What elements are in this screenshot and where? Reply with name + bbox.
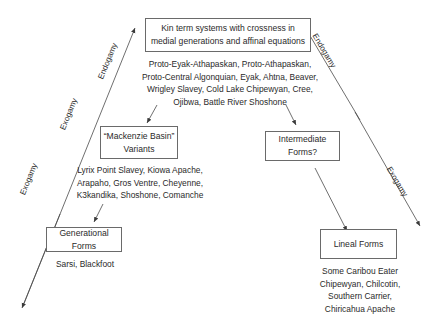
node-top-box: Kin term systems with crossness in media…: [145, 18, 311, 52]
node-generational-box: Generational Forms: [46, 227, 122, 252]
node-mackenzie-title-line1: “Mackenzie Basin”: [104, 130, 175, 143]
member-line: Ojibwa, Battle River Shoshone: [130, 96, 330, 109]
node-mackenzie-box: “Mackenzie Basin” Variants: [100, 126, 178, 159]
member-line: Arapaho, Gros Ventre, Cheyenne,: [68, 177, 212, 190]
node-intermediate-title: Intermediate Forms?: [266, 133, 339, 159]
axis-label-left-lower: Exogamy: [18, 162, 39, 196]
member-line: Wrigley Slavey, Cold Lake Chipewyan, Cre…: [130, 83, 330, 96]
member-line: Proto-Central Algonquian, Eyak, Ahtna, B…: [130, 71, 330, 84]
member-line: Chiricahua Apache: [310, 303, 410, 316]
member-line: Chipewyan, Chilcotin,: [310, 278, 410, 291]
member-line: Lyrix Point Slavey, Kiowa Apache,: [68, 164, 212, 177]
node-top-title-line1: Kin term systems with crossness in: [161, 22, 295, 35]
member-line: Sarsi, Blackfoot: [40, 258, 130, 271]
node-generational-title: Generational Forms: [47, 227, 121, 253]
node-mackenzie-members: Lyrix Point Slavey, Kiowa Apache, Arapah…: [68, 164, 212, 202]
node-mackenzie-title-line2: Variants: [124, 143, 155, 156]
node-top-members: Proto-Eyak-Athapaskan, Proto-Athapaskan,…: [130, 58, 330, 108]
axis-label-left-middle: Exogamy: [58, 97, 79, 131]
node-lineal-members: Some Caribou Eater Chipewyan, Chilcotin,…: [310, 265, 410, 315]
axis-label-left-upper: Endogamy: [96, 42, 119, 81]
node-top-title-line2: medial generations and affinal equations: [151, 35, 305, 48]
node-intermediate-box: Intermediate Forms?: [265, 131, 340, 161]
member-line: Some Caribou Eater: [310, 265, 410, 278]
arrow-mackenzie-to-generational: [94, 204, 103, 222]
arrow-intermediate-to-lineal: [315, 168, 347, 231]
node-lineal-title: Lineal Forms: [334, 238, 384, 251]
member-line: Southern Carrier,: [310, 290, 410, 303]
member-line: K3kandika, Shoshone, Comanche: [68, 189, 212, 202]
arrow-top-to-intermediate: [286, 105, 296, 125]
node-generational-members: Sarsi, Blackfoot: [40, 258, 130, 271]
node-lineal-box: Lineal Forms: [320, 229, 397, 259]
axis-label-right-lower: Exogamy: [385, 165, 410, 198]
member-line: Proto-Eyak-Athapaskan, Proto-Athapaskan,: [130, 58, 330, 71]
